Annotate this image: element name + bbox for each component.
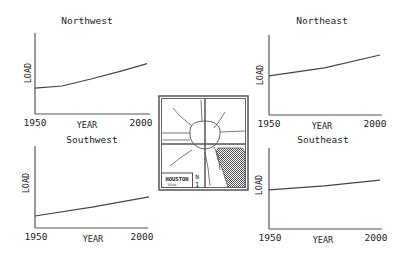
y-axis-label: LOAD [254, 175, 264, 195]
x-axis-label: YEAR [312, 121, 333, 131]
series-line [35, 197, 149, 216]
chart-southwest: Southwest LOAD 1950 YEAR 2000 [21, 134, 154, 244]
x-tick-start: 1950 [25, 231, 48, 242]
x-axis-label: YEAR [77, 120, 98, 130]
x-tick-end: 2000 [131, 231, 154, 242]
y-axis-label: LOAD [21, 173, 31, 193]
x-tick-end: 2000 [365, 232, 388, 243]
chart-northwest: Northwest LOAD 1950 YEAR 2000 [23, 15, 153, 130]
map-scale-label: 1 [195, 181, 199, 189]
map-state-label: TEXAS [167, 183, 176, 187]
x-tick-end: 2000 [364, 118, 387, 129]
chart-northeast: Northeast LOAD 1950 YEAR 2000 [255, 15, 387, 131]
y-axis-label: LOAD [255, 65, 265, 85]
series-line [35, 64, 147, 89]
north-arrow-icon: N [195, 173, 199, 180]
chart-southeast: Southeast LOAD 1950 YEAR 2000 [254, 134, 388, 245]
series-line [269, 180, 380, 190]
x-axis-label: YEAR [313, 235, 334, 245]
x-tick-start: 1950 [259, 232, 282, 243]
series-line [269, 55, 380, 76]
figure: Northwest LOAD 1950 YEAR 2000 Northeast … [0, 0, 409, 258]
chart-title: Northwest [61, 15, 112, 26]
map-city-label: HOUSTON [165, 176, 188, 182]
x-tick-start: 1950 [258, 118, 281, 129]
chart-title: Southwest [66, 134, 117, 145]
chart-title: Southeast [297, 134, 348, 145]
chart-title: Northeast [296, 15, 347, 26]
x-axis-label: YEAR [83, 234, 104, 244]
x-tick-start: 1950 [24, 117, 47, 128]
y-axis-label: LOAD [23, 63, 33, 83]
houston-map: HOUSTON TEXAS N 1 [159, 96, 248, 190]
x-tick-end: 2000 [130, 117, 153, 128]
